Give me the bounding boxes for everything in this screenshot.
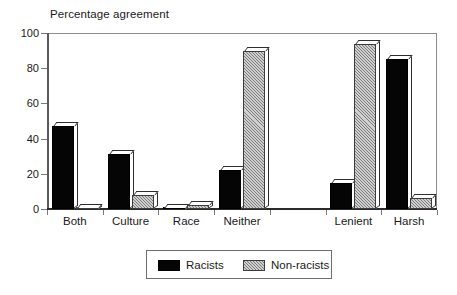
legend-label-racists: Racists (186, 259, 224, 271)
bar-face (410, 198, 432, 209)
x-tick (158, 210, 159, 215)
x-tick-label: Harsh (394, 215, 425, 227)
bar-side-highlight (74, 123, 78, 209)
bar-face (219, 170, 241, 209)
y-axis-line (47, 33, 49, 210)
x-tick-label: Race (173, 215, 200, 227)
legend-swatch-racists (158, 260, 180, 271)
x-axis-line (47, 208, 437, 210)
y-tick (41, 103, 47, 104)
bar (219, 170, 241, 209)
bar (76, 208, 98, 210)
bar-top-highlight (165, 204, 190, 208)
bar-top-highlight (388, 55, 413, 59)
bar-face (52, 126, 74, 209)
bar-top-highlight (109, 150, 134, 154)
x-tick-label: Both (63, 215, 87, 227)
x-tick-label: Culture (112, 215, 149, 227)
bar-face (132, 195, 154, 209)
bar-face (187, 205, 209, 209)
bar (132, 195, 154, 209)
bar-side-highlight (408, 56, 412, 209)
x-tick (326, 210, 327, 215)
y-tick-label: 60 (1, 97, 39, 109)
x-tick (103, 210, 104, 215)
y-tick-label: 80 (1, 62, 39, 74)
bar-face (354, 44, 376, 209)
bar (163, 208, 185, 210)
y-tick-label: 20 (1, 168, 39, 180)
bar-face (108, 154, 130, 209)
bar (243, 51, 265, 209)
legend-label-non-racists: Non-racists (271, 259, 329, 271)
bar-top-highlight (53, 122, 78, 126)
bar-top-highlight (189, 201, 214, 205)
legend-swatch-non-racists (243, 260, 265, 271)
y-tick-label: 0 (1, 203, 39, 215)
y-tick-label: 40 (1, 133, 39, 145)
y-tick (41, 33, 47, 34)
legend: Racists Non-racists (146, 250, 332, 279)
x-tick (437, 210, 438, 215)
bar (330, 183, 352, 209)
x-tick (270, 210, 271, 215)
bar-top-highlight (244, 47, 269, 51)
x-tick (47, 210, 48, 215)
bar (187, 205, 209, 209)
bar-side-highlight (376, 40, 380, 209)
y-tick (41, 68, 47, 69)
bar-face (330, 183, 352, 209)
bar-top-highlight (77, 204, 102, 208)
bar (386, 59, 408, 209)
x-tick-label: Lenient (335, 215, 373, 227)
y-tick-label: 100 (1, 27, 39, 39)
chart-title: Percentage agreement (50, 8, 169, 20)
bar-top-highlight (356, 40, 381, 44)
bar-top-highlight (133, 191, 158, 195)
x-tick (214, 210, 215, 215)
legend-item-non-racists: Non-racists (243, 258, 329, 272)
bar (410, 198, 432, 209)
bar-side-highlight (265, 47, 269, 209)
x-tick-label: Neither (223, 215, 260, 227)
bar (108, 154, 130, 209)
bar-top-highlight (332, 179, 357, 183)
bar (52, 126, 74, 209)
bar-top-highlight (412, 194, 437, 198)
y-tick (41, 174, 47, 175)
bar-face (386, 59, 408, 209)
x-tick (381, 210, 382, 215)
bar-face (243, 51, 265, 209)
bar-chart: Percentage agreement 020406080100 BothCu… (0, 0, 457, 295)
legend-item-racists: Racists (158, 258, 224, 272)
bar-top-highlight (220, 166, 245, 170)
bar (354, 44, 376, 209)
y-axis-labels: 020406080100 (0, 0, 39, 295)
y-tick (41, 139, 47, 140)
